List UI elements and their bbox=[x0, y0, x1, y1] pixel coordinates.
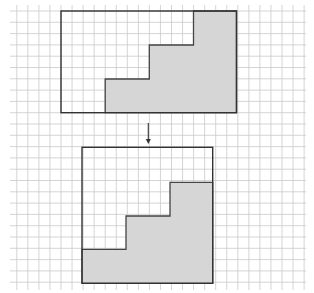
arrow-head-icon bbox=[146, 139, 151, 144]
top-shaded-staircase bbox=[105, 11, 236, 113]
transform-arrow bbox=[146, 123, 151, 144]
bottom-shaded-staircase bbox=[82, 182, 213, 283]
top-figure bbox=[61, 11, 237, 113]
diagram-canvas bbox=[0, 0, 314, 293]
bottom-figure bbox=[82, 147, 213, 283]
